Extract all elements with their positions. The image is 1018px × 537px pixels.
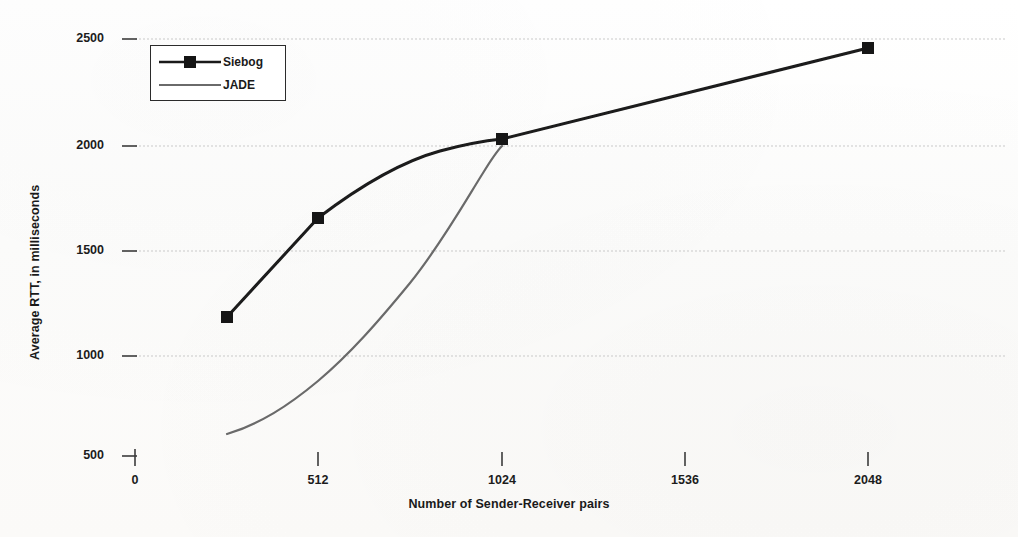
y-axis-title: Average RTT, in milliseconds: [28, 185, 42, 360]
x-tick-label-1536: 1536: [655, 473, 715, 487]
legend: Siebog JADE: [150, 45, 286, 101]
x-tick-label-2048: 2048: [838, 473, 898, 487]
y-tick-label-2500: 2500: [44, 31, 104, 45]
y-tick-label-1500: 1500: [44, 243, 104, 257]
x-tick-label-0: 0: [105, 473, 165, 487]
y-tick-label-500: 500: [44, 448, 104, 462]
x-tick-label-512: 512: [288, 473, 348, 487]
y-tick-label-2000: 2000: [44, 138, 104, 152]
legend-label-siebog: Siebog: [223, 55, 263, 69]
y-tick-label-1000: 1000: [44, 348, 104, 362]
series-line-jade: [227, 146, 502, 434]
x-axis-ticks: [135, 449, 868, 466]
legend-label-jade: JADE: [223, 78, 255, 92]
x-axis-title: Number of Sender-Receiver pairs: [0, 497, 1018, 511]
legend-item-siebog: Siebog: [151, 50, 285, 74]
series-line-siebog: [227, 48, 868, 317]
legend-item-jade: JADE: [151, 73, 285, 97]
chart-figure: 2500 2000 1500 1000 500 0 512 1024 1536 …: [0, 0, 1018, 537]
legend-swatch-siebog: [157, 53, 223, 71]
series-markers-siebog: [221, 42, 874, 323]
legend-swatch-jade: [157, 76, 223, 94]
x-tick-label-1024: 1024: [472, 473, 532, 487]
